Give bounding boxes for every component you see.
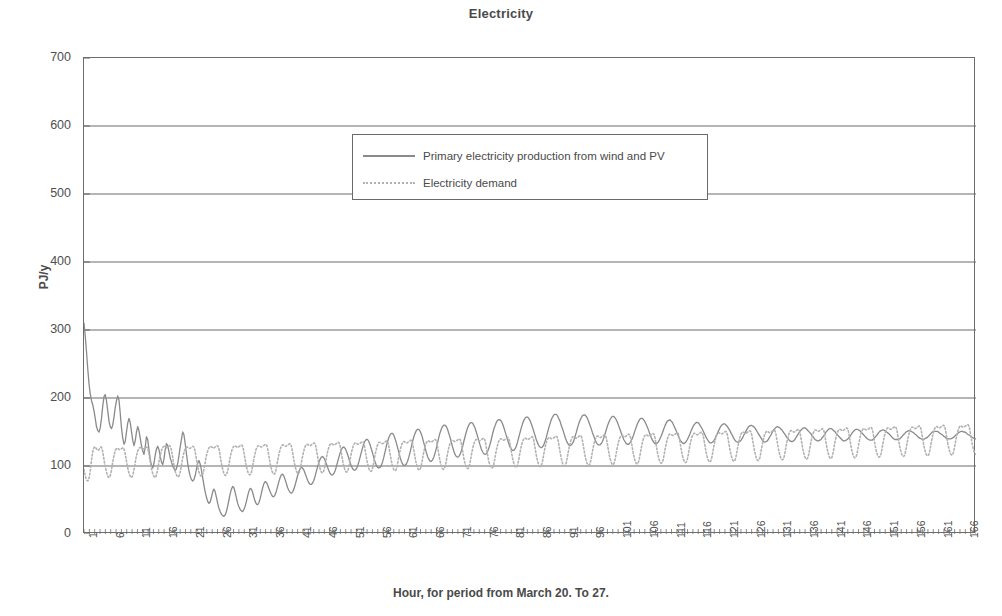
x-tick-label: 41 bbox=[301, 526, 313, 538]
legend: Primary electricity production from wind… bbox=[352, 134, 708, 200]
legend-swatch-solid-icon bbox=[363, 155, 415, 157]
x-tick-label: 161 bbox=[942, 520, 954, 538]
x-tick-label: 51 bbox=[354, 526, 366, 538]
x-axis-title: Hour, for period from March 20. To 27. bbox=[0, 586, 1002, 600]
electricity-chart: Electricity PJ/y 0100200300400500600700 … bbox=[0, 0, 1002, 616]
legend-label-production: Primary electricity production from wind… bbox=[423, 150, 665, 162]
x-tick-label: 11 bbox=[140, 527, 152, 538]
x-tick-label: 121 bbox=[728, 520, 740, 538]
x-tick-label: 101 bbox=[621, 520, 633, 538]
legend-swatch-dotted-icon bbox=[363, 182, 415, 184]
x-tick-label: 166 bbox=[968, 520, 980, 538]
x-tick-label: 36 bbox=[274, 526, 286, 538]
legend-item-demand: Electricity demand bbox=[363, 173, 517, 193]
x-tick-label: 46 bbox=[327, 526, 339, 538]
x-tick-label: 111 bbox=[675, 522, 687, 538]
x-tick-label: 91 bbox=[568, 526, 580, 538]
x-tick-label: 131 bbox=[781, 520, 793, 538]
x-tick-label: 61 bbox=[407, 526, 419, 538]
x-tick-label: 86 bbox=[541, 526, 553, 538]
x-tick-label: 126 bbox=[755, 520, 767, 538]
x-tick-label: 146 bbox=[861, 520, 873, 538]
legend-label-demand: Electricity demand bbox=[423, 177, 517, 189]
x-tick-label: 156 bbox=[915, 520, 927, 538]
x-tick-label: 71 bbox=[461, 526, 473, 538]
x-tick-label: 31 bbox=[247, 526, 259, 538]
x-tick-label: 16 bbox=[167, 526, 179, 538]
legend-item-production: Primary electricity production from wind… bbox=[363, 146, 665, 166]
x-tick-label: 106 bbox=[648, 520, 660, 538]
x-tick-label: 151 bbox=[888, 520, 900, 538]
x-tick-label: 76 bbox=[488, 526, 500, 538]
x-tick-label: 6 bbox=[114, 532, 126, 538]
x-tick-label: 1 bbox=[87, 532, 99, 538]
x-tick-label: 96 bbox=[594, 526, 606, 538]
x-tick-label: 141 bbox=[835, 520, 847, 538]
x-axis-tick-labels: 1611162126313641465156616671768186919610… bbox=[0, 0, 1002, 616]
x-tick-label: 81 bbox=[514, 526, 526, 538]
x-tick-label: 21 bbox=[194, 526, 206, 538]
x-tick-label: 56 bbox=[381, 526, 393, 538]
x-tick-label: 116 bbox=[701, 521, 713, 538]
x-tick-label: 26 bbox=[221, 526, 233, 538]
x-tick-label: 136 bbox=[808, 520, 820, 538]
x-tick-label: 66 bbox=[434, 526, 446, 538]
